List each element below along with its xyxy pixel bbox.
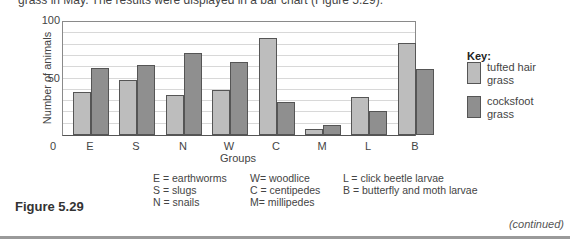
bar-L-tufted	[351, 97, 369, 135]
intro-text: grass in May. The results were displayed…	[18, 0, 383, 7]
key-earthworms: E = earthworms	[153, 172, 227, 184]
bar-C-cocksfoot	[277, 102, 295, 135]
x-tick-C: C	[266, 140, 286, 152]
bar-C-tufted	[259, 38, 277, 135]
x-tick-E: E	[80, 140, 100, 152]
x-tick-M: M	[312, 140, 332, 152]
key-woodlice: W= woodlice	[250, 172, 320, 184]
gridline	[63, 44, 415, 45]
key-snails: N = snails	[153, 196, 227, 208]
bar-B-cocksfoot	[416, 69, 434, 135]
x-tick-B: B	[405, 140, 425, 152]
bar-L-cocksfoot	[369, 111, 387, 135]
gridline	[63, 55, 415, 56]
bar-N-cocksfoot	[184, 53, 202, 135]
group-key-col2: W= woodlice C = centipedes M= millipedes	[250, 172, 320, 208]
bar-B-tufted	[398, 43, 416, 135]
y-axis-label: Number of animals	[41, 23, 53, 133]
legend-swatch-cocksfoot	[467, 96, 481, 118]
legend-label-cocksfoot: cocksfoot grass	[487, 95, 557, 121]
bar-S-tufted	[119, 80, 137, 135]
bar-E-tufted	[73, 92, 91, 135]
page-rule	[0, 236, 570, 239]
bar-M-cocksfoot	[323, 125, 341, 135]
bar-N-tufted	[166, 95, 184, 135]
bar-W-tufted	[212, 90, 230, 135]
key-butterfly-moth: B = butterfly and moth larvae	[343, 184, 478, 196]
x-tick-N: N	[173, 140, 193, 152]
y-tick-0: 0	[50, 140, 62, 152]
key-click-beetle: L = click beetle larvae	[343, 172, 478, 184]
group-key-col3: L = click beetle larvae B = butterfly an…	[343, 172, 478, 196]
bar-W-cocksfoot	[230, 62, 248, 135]
key-millipedes: M= millipedes	[250, 196, 320, 208]
figure-label: Figure 5.29	[15, 199, 84, 214]
x-tick-W: W	[219, 140, 239, 152]
gridline	[63, 32, 415, 33]
bar-S-cocksfoot	[137, 65, 155, 135]
bar-E-cocksfoot	[91, 68, 109, 135]
key-slugs: S = slugs	[153, 184, 227, 196]
bar-M-tufted	[305, 129, 323, 135]
continued-label: (continued)	[509, 218, 564, 230]
key-centipedes: C = centipedes	[250, 184, 320, 196]
legend-swatch-tufted	[467, 62, 481, 84]
legend-label-tufted: tufted hair grass	[487, 61, 557, 87]
group-key-col1: E = earthworms S = slugs N = snails	[153, 172, 227, 208]
x-tick-S: S	[126, 140, 146, 152]
plot-area	[62, 21, 416, 136]
x-tick-L: L	[358, 140, 378, 152]
x-axis-label: Groups	[220, 152, 256, 164]
